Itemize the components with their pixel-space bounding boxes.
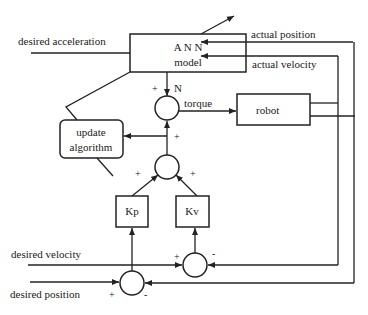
sum2-plus-right: + bbox=[190, 168, 196, 179]
actual-position-label: actual position bbox=[251, 28, 316, 40]
sum-junction-pd bbox=[155, 155, 179, 179]
torque-label: torque bbox=[184, 97, 212, 109]
sum1-plus-bottom: + bbox=[174, 131, 180, 142]
sum3-plus: + bbox=[174, 251, 180, 262]
control-block-diagram: desired acceleration A N N model actual … bbox=[0, 0, 368, 315]
sum-junction-torque bbox=[155, 96, 179, 120]
kp-label: Kp bbox=[125, 205, 139, 217]
update-lower-link bbox=[97, 158, 113, 176]
sum-junction-position bbox=[120, 271, 144, 295]
adaptation-arrow bbox=[201, 16, 234, 34]
sum4-minus: - bbox=[144, 289, 147, 300]
sum1-plus-top: + bbox=[152, 83, 158, 94]
ann-model-label-line2: model bbox=[174, 56, 202, 68]
sum-junction-velocity bbox=[183, 253, 207, 277]
desired-velocity-label: desired velocity bbox=[11, 248, 81, 260]
sum3-minus: - bbox=[212, 248, 215, 259]
robot-label: robot bbox=[256, 104, 279, 116]
update-to-ann-link bbox=[66, 72, 130, 120]
ann-model-label-line1: A N N bbox=[174, 41, 203, 53]
update-algorithm-label-line2: algorithm bbox=[70, 141, 113, 153]
sum4-plus: + bbox=[109, 289, 115, 300]
n-label: N bbox=[174, 82, 182, 94]
sum2-plus-left: + bbox=[135, 168, 141, 179]
kv-label: Kv bbox=[185, 205, 199, 217]
update-algorithm-label-line1: update bbox=[76, 126, 105, 138]
actual-velocity-label: actual velocity bbox=[252, 58, 317, 70]
desired-acceleration-label: desired acceleration bbox=[18, 35, 106, 47]
desired-position-label: desired position bbox=[10, 288, 80, 300]
